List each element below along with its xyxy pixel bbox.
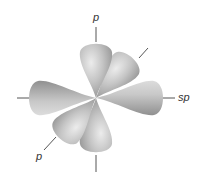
orbital-svg xyxy=(0,0,203,181)
label-top-p: p xyxy=(93,12,99,23)
lobes xyxy=(29,44,163,153)
label-right-sp: sp xyxy=(178,92,190,103)
orbital-diagram: p sp p xyxy=(0,0,203,181)
axis-upper-right xyxy=(139,48,148,58)
axis-lower-left xyxy=(44,137,56,150)
label-bottom-left-p: p xyxy=(36,151,42,162)
